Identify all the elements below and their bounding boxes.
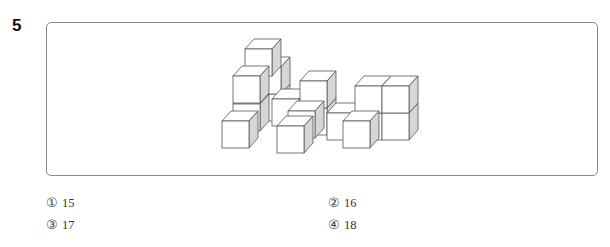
cube bbox=[382, 76, 418, 113]
option-value: 15 bbox=[62, 196, 75, 210]
cube bbox=[233, 66, 269, 103]
cube bbox=[277, 116, 313, 153]
answer-option-3[interactable]: ③17 bbox=[46, 217, 75, 233]
cube bbox=[343, 111, 379, 148]
answer-option-2[interactable]: ②16 bbox=[328, 195, 357, 211]
cube bbox=[222, 111, 258, 148]
option-mark: ① bbox=[46, 195, 58, 210]
option-value: 17 bbox=[62, 218, 75, 232]
cube-figure bbox=[0, 0, 610, 247]
answer-option-4[interactable]: ④18 bbox=[328, 217, 357, 233]
option-mark: ② bbox=[328, 195, 340, 210]
option-mark: ③ bbox=[46, 217, 58, 232]
option-mark: ④ bbox=[328, 217, 340, 232]
answer-option-1[interactable]: ①15 bbox=[46, 195, 75, 211]
option-value: 18 bbox=[344, 218, 357, 232]
option-value: 16 bbox=[344, 196, 357, 210]
